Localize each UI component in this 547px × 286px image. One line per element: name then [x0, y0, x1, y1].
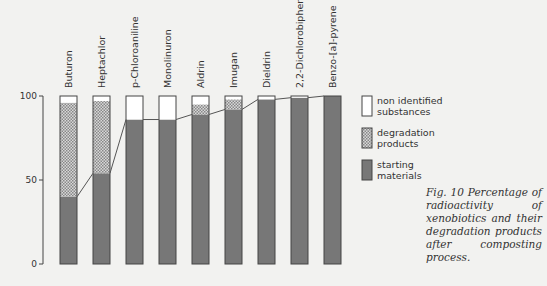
category-label: p-Chloroaniline — [129, 16, 140, 88]
y-axis: 050100 — [20, 91, 43, 269]
bar-segment-degradation — [225, 99, 242, 109]
legend-label: degradation — [377, 127, 435, 138]
category-label: Monolinuron — [162, 29, 173, 88]
bar-segment-starting — [225, 109, 242, 264]
bar-segment-starting — [159, 120, 176, 264]
bar-segment-nonidentified — [258, 96, 275, 99]
bar-segment-starting — [93, 173, 110, 264]
category-label: Heptachlor — [96, 36, 107, 88]
category-label: Imugan — [228, 52, 239, 88]
y-tick-label: 0 — [31, 259, 37, 269]
y-tick-label: 100 — [20, 91, 37, 101]
figure-caption: Fig. 10 Percentage of radioactivity of x… — [426, 186, 542, 264]
bar-segment-nonidentified — [225, 96, 242, 99]
category-label: 2,2-Dichlorobiphenyl — [294, 0, 305, 88]
connector-segment — [110, 120, 126, 174]
bars — [60, 96, 341, 264]
category-label: Aldrin — [195, 60, 206, 88]
connector-segment — [275, 98, 291, 100]
bar-segment-starting — [291, 98, 308, 264]
connector-segment — [242, 99, 258, 109]
bar-segment-starting — [126, 120, 143, 264]
connector-segment — [308, 96, 324, 98]
legend-label: substances — [377, 106, 431, 117]
category-label: Buturon — [63, 50, 74, 88]
connector-segment — [209, 109, 225, 114]
legend-swatch-starting — [362, 160, 372, 180]
category-labels: ButuronHeptachlorp-ChloroanilineMonolinu… — [63, 0, 338, 88]
bar-segment-nonidentified — [60, 96, 77, 103]
bar-segment-nonidentified — [192, 96, 209, 104]
category-label: Dieldrin — [261, 51, 272, 88]
legend-label: products — [377, 138, 419, 149]
legend-label: starting — [377, 159, 414, 170]
connector-segment — [176, 114, 192, 119]
bar-segment-degradation — [60, 103, 77, 197]
y-tick-label: 50 — [26, 175, 38, 185]
bar-segment-starting — [258, 99, 275, 264]
legend-swatch-nonidentified — [362, 96, 372, 116]
legend-label: materials — [377, 170, 422, 181]
bar-segment-nonidentified — [93, 96, 110, 101]
connector-segment — [77, 173, 93, 197]
legend: non identifiedsubstancesdegradationprodu… — [362, 95, 443, 181]
bar-segment-starting — [60, 197, 77, 264]
bar-segment-degradation — [192, 104, 209, 114]
bar-segment-degradation — [93, 101, 110, 173]
category-label: Benzo-[a]-pyrene — [327, 5, 338, 88]
bar-segment-nonidentified — [126, 96, 143, 120]
bar-segment-starting — [324, 96, 341, 264]
legend-label: non identified — [377, 95, 443, 106]
bar-segment-nonidentified — [159, 96, 176, 120]
bar-segment-starting — [192, 114, 209, 264]
legend-swatch-degradation — [362, 128, 372, 148]
